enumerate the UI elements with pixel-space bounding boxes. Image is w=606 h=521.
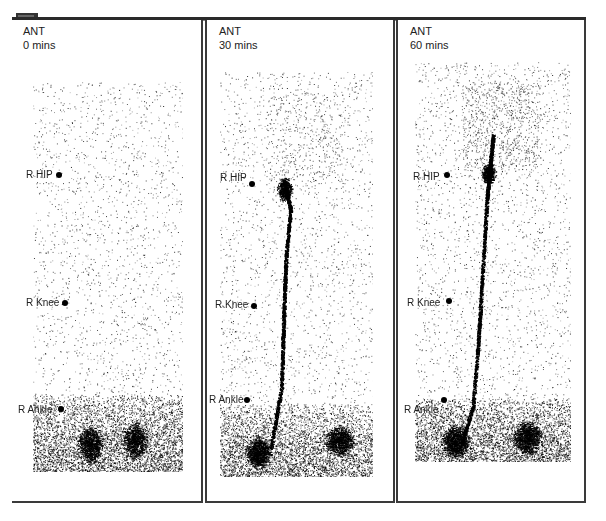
scintigraphy-image (33, 82, 183, 472)
marker-label-hip: R HIP (26, 169, 53, 180)
marker-label-hip: R HIP (220, 172, 247, 183)
ankle-marker-dot (58, 406, 64, 412)
time-label: 0 mins (23, 38, 55, 52)
ankle-marker-dot (441, 397, 447, 403)
panel-header: ANT 60 mins (410, 24, 449, 52)
scan-panel-30min[interactable]: ANT 30 mins R HIP R Knee R Ankle (205, 20, 395, 503)
marker-label-ankle: R Ankle (18, 404, 52, 415)
time-label: 60 mins (410, 38, 449, 52)
hip-marker-dot (444, 172, 450, 178)
scan-panel-0min[interactable]: ANT 0 mins R HIP R Knee R Ankle (12, 20, 203, 503)
marker-label-hip: R HIP (413, 171, 440, 182)
marker-label-knee: R Knee (407, 297, 440, 308)
panel-header: ANT 0 mins (23, 24, 55, 52)
knee-marker-dot (446, 298, 452, 304)
knee-marker-dot (62, 300, 68, 306)
time-label: 30 mins (219, 38, 258, 52)
marker-label-ankle: R Ankle (404, 404, 438, 415)
marker-label-knee: R Knee (26, 297, 59, 308)
view-label: ANT (219, 24, 258, 38)
ankle-marker-dot (244, 397, 250, 403)
scan-panel-60min[interactable]: ANT 60 mins R HIP R Knee R Ankle (396, 20, 586, 503)
marker-label-ankle: R Ankle (209, 394, 243, 405)
hip-marker-dot (249, 181, 255, 187)
marker-label-knee: R Knee (215, 299, 248, 310)
hip-marker-dot (56, 172, 62, 178)
panel-header: ANT 30 mins (219, 24, 258, 52)
view-label: ANT (23, 24, 55, 38)
view-label: ANT (410, 24, 449, 38)
scintigraphy-image (220, 72, 373, 477)
knee-marker-dot (251, 303, 257, 309)
scintigraphy-image (415, 62, 571, 462)
